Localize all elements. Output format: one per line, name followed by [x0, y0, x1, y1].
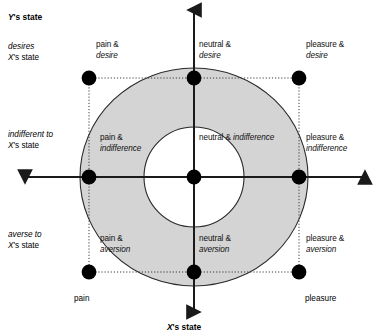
cell-label-neutral-indifference-italic: indifference: [233, 133, 274, 142]
row-label-averse-state: 's state: [13, 241, 39, 250]
dot-pleasure-desire[interactable]: [292, 71, 307, 86]
cell-label-pleasure-desire-italic: desire: [306, 51, 328, 60]
row-label-indifferent-state: 's state: [13, 141, 39, 150]
row-label-desires-line1: desires: [8, 42, 34, 51]
cell-label-neutral-aversion: neutral & aversion: [199, 234, 231, 255]
cell-label-pleasure-indifference-italic: indifference: [306, 144, 347, 153]
cell-label-pain-indifference-roman: pain &: [100, 133, 123, 142]
cell-label-pain-aversion: pain & aversion: [100, 234, 130, 255]
cell-label-pain-desire: pain & desire: [96, 40, 119, 61]
row-label-averse: averse to X's state: [8, 230, 42, 251]
cell-label-pleasure-desire: pleasure & desire: [306, 40, 344, 61]
cell-label-neutral-aversion-roman: neutral &: [199, 234, 231, 243]
dot-neutral-aversion[interactable]: [187, 265, 202, 280]
dot-pain-indifference[interactable]: [82, 170, 97, 185]
x-axis-right-end-label: pleasure: [305, 294, 336, 305]
cell-label-neutral-desire: neutral & desire: [199, 40, 231, 61]
cell-label-pleasure-desire-roman: pleasure &: [306, 40, 344, 49]
row-label-desires-line2: X's state: [8, 53, 39, 62]
y-axis-title-suffix: 's state: [14, 12, 43, 22]
y-axis-title: Y's state: [8, 12, 42, 22]
row-label-indifferent: indifferent to X's state: [8, 130, 53, 151]
dot-pain-desire[interactable]: [82, 71, 97, 86]
cell-label-neutral-aversion-italic: aversion: [199, 245, 229, 254]
cell-label-pain-aversion-italic: aversion: [100, 245, 130, 254]
row-label-indifferent-line2: X's state: [8, 141, 39, 150]
x-axis-title: X's state: [167, 322, 201, 332]
cell-label-neutral-desire-italic: desire: [199, 51, 221, 60]
cell-label-neutral-indifference-roman: neutral &: [199, 133, 231, 142]
dot-neutral-indifference[interactable]: [187, 170, 202, 185]
cell-label-pain-aversion-roman: pain &: [100, 234, 123, 243]
cell-label-pleasure-aversion: pleasure & aversion: [306, 234, 344, 255]
cell-label-neutral-desire-roman: neutral &: [199, 40, 231, 49]
cell-label-pleasure-indifference: pleasure & indifference: [306, 133, 347, 154]
x-axis-left-end-label: pain: [74, 294, 89, 305]
row-label-desires: desires X's state: [8, 42, 39, 63]
cell-label-pleasure-indifference-roman: pleasure &: [306, 133, 344, 142]
row-label-averse-line1: averse to: [8, 230, 42, 239]
cell-label-pain-indifference: pain & indifference: [100, 133, 141, 154]
dot-pain-aversion[interactable]: [82, 265, 97, 280]
row-label-desires-state: 's state: [13, 53, 39, 62]
figure-canvas: Y's state X's state desires X's state in…: [0, 0, 377, 336]
x-axis-title-suffix: 's state: [173, 322, 202, 332]
cell-label-neutral-indifference: neutral & indifference: [199, 133, 274, 144]
dot-neutral-desire[interactable]: [187, 71, 202, 86]
cell-label-pain-indifference-italic: indifference: [100, 144, 141, 153]
cell-label-pleasure-aversion-italic: aversion: [306, 245, 336, 254]
cell-label-pain-desire-italic: desire: [96, 51, 118, 60]
row-label-averse-line2: X's state: [8, 241, 39, 250]
dot-pleasure-aversion[interactable]: [292, 265, 307, 280]
dot-pleasure-indifference[interactable]: [292, 170, 307, 185]
cell-label-pain-desire-roman: pain &: [96, 40, 119, 49]
cell-label-pleasure-aversion-roman: pleasure &: [306, 234, 344, 243]
row-label-indifferent-line1: indifferent to: [8, 130, 53, 139]
